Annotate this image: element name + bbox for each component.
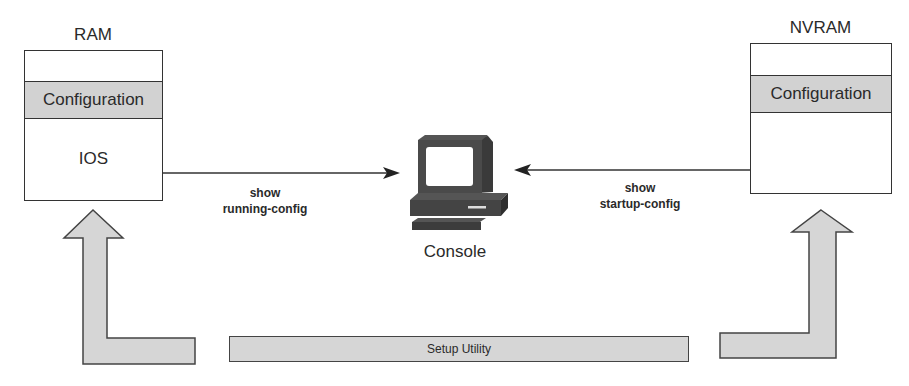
ram-to-console-arrow <box>162 167 400 179</box>
startup-command-verb: show <box>580 180 700 196</box>
running-command-verb: show <box>205 185 325 201</box>
nvram-memory-block: Configuration <box>750 43 892 194</box>
ram-title: RAM <box>24 25 162 45</box>
ram-memory-block: Configuration IOS <box>24 50 163 201</box>
setup-utility-bar: Setup Utility <box>229 336 689 362</box>
ram-ios-section: IOS <box>25 149 162 169</box>
show-startup-config-label: show startup-config <box>580 180 700 212</box>
console-computer-icon <box>410 135 508 230</box>
nvram-title: NVRAM <box>750 18 891 38</box>
ram-configuration-section: Configuration <box>25 81 162 119</box>
nvram-to-console-arrow <box>514 164 750 176</box>
running-command-arg: running-config <box>205 201 325 217</box>
console-label: Console <box>395 242 515 262</box>
setup-to-nvram-arrow <box>720 210 852 358</box>
startup-command-arg: startup-config <box>580 196 700 212</box>
nvram-configuration-section: Configuration <box>751 75 891 113</box>
setup-to-ram-arrow <box>64 210 195 364</box>
show-running-config-label: show running-config <box>205 185 325 217</box>
